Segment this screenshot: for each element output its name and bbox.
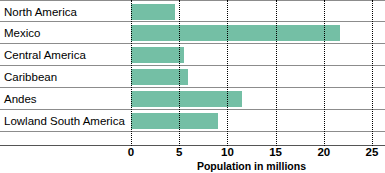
x-tick-label-5: 5	[176, 146, 182, 158]
x-axis: Population in millions 0510152025	[0, 145, 385, 173]
category-label-central-america: Central America	[4, 44, 86, 66]
bar-chart: North America Mexico Central America Car…	[0, 0, 385, 173]
table-row: Andes	[0, 88, 385, 110]
table-row: Central America	[0, 44, 385, 66]
x-tick-label-15: 15	[269, 146, 282, 158]
table-row: North America	[0, 0, 385, 22]
bar-lowland-south-america	[131, 113, 218, 129]
bar-andes	[131, 91, 242, 107]
x-tick-label-0: 0	[128, 146, 134, 158]
bar-track	[0, 88, 385, 110]
bar-track	[0, 22, 385, 44]
table-row: Caribbean	[0, 66, 385, 88]
category-label-andes: Andes	[4, 88, 37, 110]
table-row: Lowland South America	[0, 110, 385, 132]
plot-area: North America Mexico Central America Car…	[0, 0, 385, 145]
category-label-mexico: Mexico	[4, 22, 40, 44]
bar-north-america	[131, 4, 175, 20]
x-axis-title: Population in millions	[131, 160, 372, 172]
x-tick-label-20: 20	[317, 146, 330, 158]
bar-track	[0, 66, 385, 88]
table-row: Mexico	[0, 22, 385, 44]
category-label-north-america: North America	[4, 1, 77, 23]
x-tick-label-25: 25	[366, 146, 379, 158]
bar-mexico	[131, 25, 340, 41]
bar-caribbean	[131, 69, 188, 85]
bar-central-america	[131, 47, 184, 63]
category-label-lowland-south-america: Lowland South America	[4, 110, 125, 132]
category-label-caribbean: Caribbean	[4, 66, 57, 88]
x-tick-label-10: 10	[221, 146, 234, 158]
